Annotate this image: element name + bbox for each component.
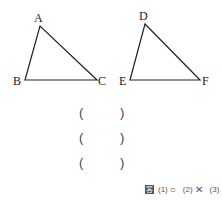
vertex-label-a: A [34, 11, 43, 25]
vertex-label-f: F [202, 74, 209, 88]
vertex-label-c: C [98, 74, 106, 88]
close-paren: ) [120, 155, 124, 170]
open-paren: ( [79, 105, 83, 120]
circle-mark-icon: ○ [221, 184, 222, 195]
cross-mark-icon: ✕ [195, 184, 203, 195]
answer-num-2: (2) [183, 185, 193, 194]
open-paren: ( [79, 130, 83, 145]
answer-icon: 答 [145, 185, 154, 194]
triangle-abc: A B C [13, 11, 106, 88]
close-paren: ) [120, 105, 124, 120]
vertex-label-e: E [119, 74, 126, 88]
triangle-figures: A B C D E F [0, 0, 222, 110]
vertex-label-d: D [139, 9, 148, 23]
close-paren: ) [120, 130, 124, 145]
answer-num-1: (1) [158, 185, 168, 194]
triangle-def: D E F [119, 9, 209, 88]
circle-mark-icon: ○ [170, 184, 176, 195]
vertex-label-b: B [13, 74, 21, 88]
answer-key: 答 (1) ○ (2) ✕ (3) ○ [145, 184, 222, 195]
open-paren: ( [79, 155, 83, 170]
answer-num-3: (3) [210, 185, 220, 194]
